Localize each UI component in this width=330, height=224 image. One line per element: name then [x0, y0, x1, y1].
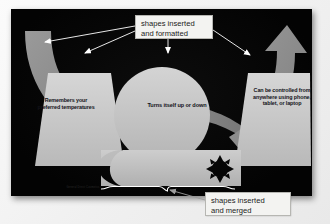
callout-shapes-inserted-and-formatted[interactable]: shapes inserted and formatted: [135, 15, 213, 39]
center-circle-label: Turns itself up or down: [139, 102, 215, 109]
callout-top-line-2: and formatted: [141, 29, 207, 39]
left-trapezoid-label: Remembers your preferred temperatures: [33, 97, 99, 110]
slide-credit-text: General Direct Cosmetics: [59, 186, 107, 189]
callout-bottom-line-1: shapes inserted: [211, 196, 285, 206]
screenshot-root: Remembers your preferred temperatures Tu…: [0, 0, 330, 224]
banner-merged-shape[interactable]: [97, 148, 243, 188]
callout-top-line-1: shapes inserted: [141, 19, 207, 29]
callout-shapes-inserted-and-merged[interactable]: shapes inserted and merged: [205, 192, 291, 216]
right-trapezoid-label: Can be controlled from anywhere using ph…: [251, 87, 312, 107]
callout-bottom-line-2: and merged: [211, 206, 285, 216]
